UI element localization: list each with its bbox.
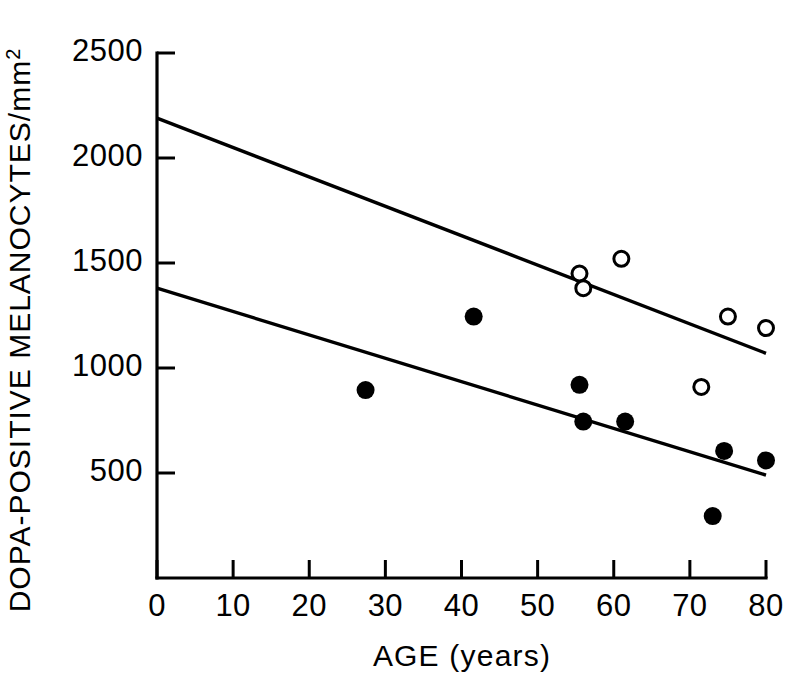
- data-point-open: [576, 281, 591, 296]
- x-tick-label-60: 60: [596, 588, 631, 623]
- y-tick-label-2500: 2500: [72, 33, 143, 68]
- data-point-filled: [465, 308, 483, 326]
- data-point-filled: [715, 442, 733, 460]
- data-point-open: [694, 379, 709, 394]
- x-tick-label-30: 30: [368, 588, 403, 623]
- figure-root: 5001000150020002500 01020304050607080 AG…: [0, 0, 790, 674]
- x-tick-label-10: 10: [215, 588, 250, 623]
- data-point-filled: [704, 507, 722, 525]
- y-tick-label-1500: 1500: [72, 243, 143, 278]
- chart-background: [0, 0, 790, 674]
- y-axis-title-group: DOPA-POSITIVE MELANOCYTES/mm2: [2, 48, 36, 613]
- data-point-open: [720, 309, 735, 324]
- x-tick-label-50: 50: [520, 588, 555, 623]
- x-tick-label-70: 70: [672, 588, 707, 623]
- data-point-filled: [357, 381, 375, 399]
- data-point-filled: [570, 376, 588, 394]
- data-point-open: [759, 321, 774, 336]
- data-point-open: [614, 251, 629, 266]
- data-point-filled: [616, 413, 634, 431]
- x-tick-label-40: 40: [444, 588, 479, 623]
- y-tick-label-500: 500: [90, 453, 143, 488]
- data-point-open: [572, 266, 587, 281]
- x-tick-label-80: 80: [748, 588, 783, 623]
- scatter-plot-chart: 5001000150020002500 01020304050607080 AG…: [0, 0, 790, 674]
- data-point-filled: [757, 451, 775, 469]
- x-tick-label-0: 0: [148, 588, 166, 623]
- x-axis-title: AGE (years): [373, 639, 551, 672]
- y-tick-label-1000: 1000: [72, 348, 143, 383]
- data-point-filled: [574, 413, 592, 431]
- x-tick-label-20: 20: [292, 588, 327, 623]
- x-axis-tick-labels: 01020304050607080: [148, 588, 784, 623]
- y-axis-title: DOPA-POSITIVE MELANOCYTES/mm2: [2, 48, 36, 613]
- y-tick-label-2000: 2000: [72, 138, 143, 173]
